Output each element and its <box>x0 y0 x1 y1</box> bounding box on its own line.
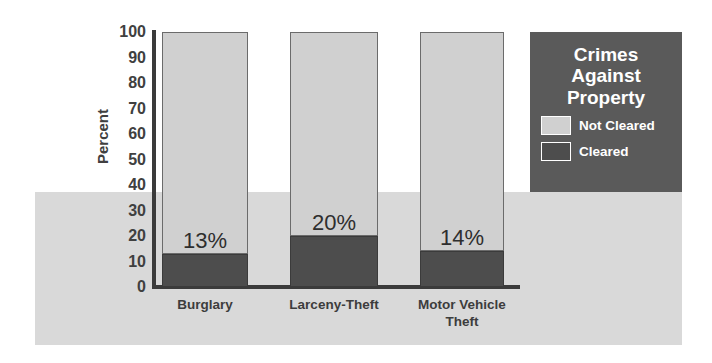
bar-segment-not-cleared <box>162 32 248 254</box>
legend-swatch-icon <box>541 142 571 161</box>
x-category-label-line-1: Motor Vehicle <box>382 297 542 314</box>
y-tick-label: 10 <box>100 254 146 270</box>
legend-item[interactable]: Cleared <box>541 142 682 161</box>
legend-title-line-3: Property <box>536 87 676 108</box>
legend-box: Crimes Against Property Not ClearedClear… <box>530 32 682 192</box>
y-tick-label: 0 <box>100 279 146 295</box>
y-tick-label: 100 <box>100 24 146 40</box>
bar-segment-cleared <box>420 251 504 287</box>
y-tick-label: 50 <box>100 152 146 168</box>
y-tick-label: 20 <box>100 228 146 244</box>
y-axis-line <box>152 30 156 289</box>
y-tick-label: 30 <box>100 203 146 219</box>
chart-container: Percent 1009080706050403020100 13%Burgla… <box>0 0 712 363</box>
bar-value-label: 14% <box>440 227 484 249</box>
legend-title-line-1: Crimes <box>536 44 676 65</box>
legend-title-line-2: Against <box>536 65 676 86</box>
bar-larceny-theft <box>290 32 378 287</box>
legend-swatch-icon <box>541 116 571 135</box>
bar-segment-cleared <box>290 236 378 287</box>
y-tick-label: 40 <box>100 177 146 193</box>
x-category-label: Motor VehicleTheft <box>382 297 542 331</box>
bar-segment-cleared <box>162 254 248 287</box>
bar-segment-not-cleared <box>290 32 378 236</box>
legend-item-label: Cleared <box>579 144 629 159</box>
y-tick-label: 90 <box>100 50 146 66</box>
y-tick-label: 70 <box>100 101 146 117</box>
legend-item[interactable]: Not Cleared <box>541 116 682 135</box>
y-tick-label: 80 <box>100 75 146 91</box>
bar-value-label: 20% <box>312 212 356 234</box>
legend-item-label: Not Cleared <box>579 118 655 133</box>
x-category-label-line-2: Theft <box>382 314 542 331</box>
bar-segment-not-cleared <box>420 32 504 251</box>
y-tick-label: 60 <box>100 126 146 142</box>
legend-title: Crimes Against Property <box>530 42 682 108</box>
bar-value-label: 13% <box>183 230 227 252</box>
legend-items: Not ClearedCleared <box>530 116 682 161</box>
